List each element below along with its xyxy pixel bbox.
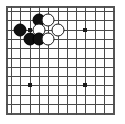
board-stones [6, 6, 115, 115]
white-stone-4[interactable] [42, 32, 55, 45]
go-board-screenshot [0, 0, 125, 124]
go-board[interactable] [6, 6, 115, 115]
